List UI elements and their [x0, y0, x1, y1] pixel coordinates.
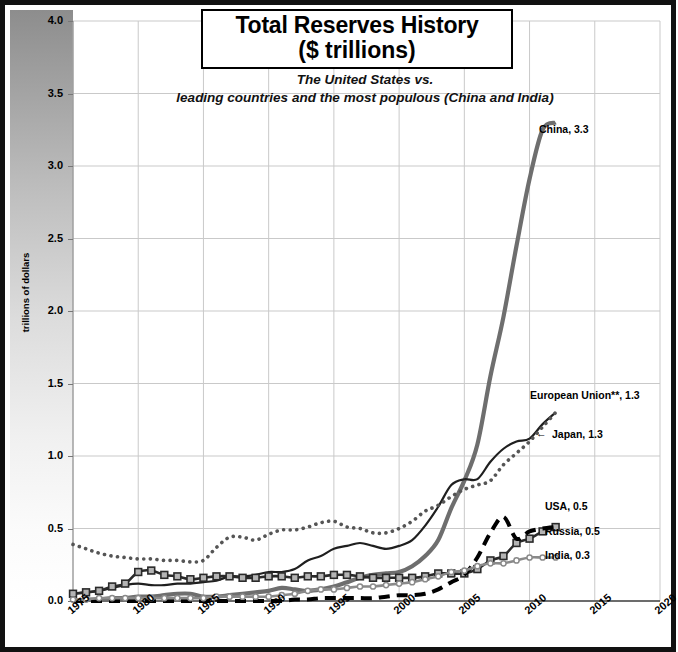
series-label: Russia, 0.5	[545, 525, 600, 537]
y-tick-label: 0.0	[29, 594, 63, 606]
chart-canvas: Total Reserves History ($ trillions) The…	[5, 5, 671, 647]
series-label: USA, 0.5	[545, 500, 588, 512]
chart-title-box: Total Reserves History ($ trillions)	[201, 9, 513, 69]
series-label: Japan, 1.3	[552, 428, 603, 440]
y-tick-label: 0.5	[29, 522, 63, 534]
y-tick-mark	[68, 384, 73, 385]
y-tick-label: 1.5	[29, 377, 63, 389]
series-label: ←	[536, 427, 547, 439]
y-tick-mark	[68, 166, 73, 167]
y-tick-label: 3.0	[29, 159, 63, 171]
chart-subtitle: The United States vs. leading countries …	[75, 71, 655, 107]
chart-subtitle-line1: The United States vs.	[75, 71, 655, 89]
y-tick-mark	[68, 456, 73, 457]
y-tick-label: 4.0	[29, 14, 63, 26]
series-label: European Union**, 1.3	[530, 389, 640, 401]
y-tick-mark	[68, 311, 73, 312]
y-tick-mark	[68, 94, 73, 95]
chart-title-line1: Total Reserves History	[203, 13, 511, 38]
y-tick-label: 2.5	[29, 232, 63, 244]
chart-title-line2: ($ trillions)	[203, 38, 511, 63]
y-tick-label: 1.0	[29, 449, 63, 461]
y-tick-mark	[68, 239, 73, 240]
y-axis-title: trillions of dollars	[20, 238, 31, 348]
y-tick-label: 2.0	[29, 304, 63, 316]
y-tick-mark	[68, 529, 73, 530]
y-tick-mark	[68, 21, 73, 22]
chart-subtitle-line2: leading countries and the most populous …	[75, 89, 655, 107]
series-label: China, 3.3	[539, 123, 589, 135]
y-tick-label: 3.5	[29, 87, 63, 99]
series-label: India, 0.3	[545, 549, 590, 561]
